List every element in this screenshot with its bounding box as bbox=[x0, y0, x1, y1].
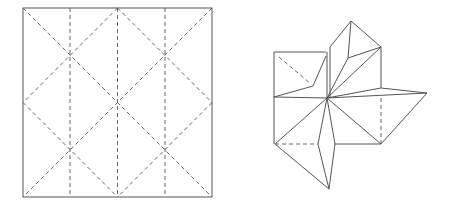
flap-edge bbox=[327, 93, 427, 144]
flap-edge bbox=[330, 21, 381, 98]
crease-pattern-square bbox=[23, 8, 212, 197]
flap-edge bbox=[274, 97, 327, 98]
flap-edge bbox=[348, 21, 351, 58]
flap-edge bbox=[274, 56, 326, 97]
flap-edge bbox=[318, 98, 335, 189]
origami-diagram bbox=[0, 0, 449, 206]
flap-edge bbox=[327, 47, 381, 98]
flap-edge bbox=[327, 88, 427, 98]
hidden-crease bbox=[279, 57, 311, 84]
folded-star-base bbox=[274, 21, 427, 189]
